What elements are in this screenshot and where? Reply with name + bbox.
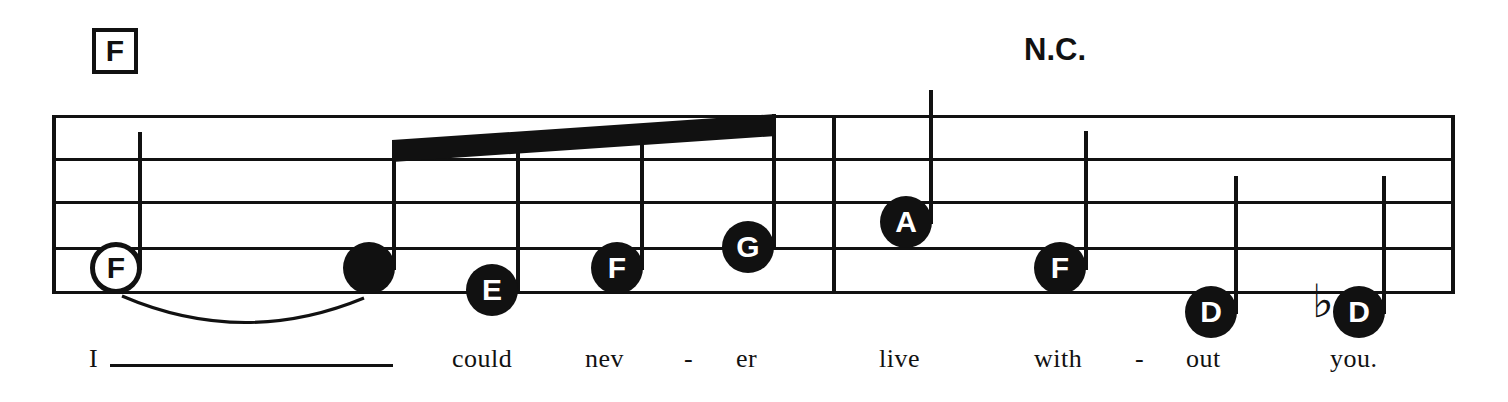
lyric-could: could [452, 346, 512, 372]
lyric-nev: nev [585, 346, 624, 372]
note-stem [392, 140, 396, 270]
lyric-i: I [89, 346, 98, 372]
notehead-d[interactable]: D [1185, 286, 1237, 338]
notehead-f[interactable]: F [90, 242, 142, 294]
notehead-f[interactable]: F [1034, 242, 1086, 294]
sheet-music-canvas: FN.C. FEFGAFD♭D Icouldnev-erlivewith-out… [0, 0, 1508, 402]
notehead-g[interactable]: G [722, 221, 774, 273]
lyric-with: with [1034, 346, 1082, 372]
barline-middle [832, 115, 836, 294]
note-stem [1084, 131, 1088, 270]
chord-symbol-boxed[interactable]: F [92, 28, 138, 74]
beam [392, 114, 776, 162]
note-stem [1382, 176, 1386, 314]
staff-line-3 [52, 201, 1455, 204]
chord-symbol[interactable]: N.C. [1024, 34, 1086, 65]
note-stem [516, 148, 520, 292]
notehead-e[interactable]: E [466, 264, 518, 316]
note-stem [772, 114, 776, 249]
notehead-a[interactable]: A [880, 196, 932, 248]
lyric-live: live [879, 346, 920, 372]
lyric-out: out [1186, 346, 1221, 372]
accidental-flat-icon: ♭ [1312, 278, 1334, 324]
barline-end [1451, 115, 1455, 294]
lyric-hyph1: - [684, 346, 693, 372]
tie-curve [118, 292, 368, 332]
lyric-hyph2: - [1135, 346, 1144, 372]
note-stem [929, 90, 933, 224]
lyric-extender-line [110, 364, 393, 367]
note-stem [1234, 176, 1238, 314]
lyric-you: you. [1330, 346, 1378, 372]
note-stem [138, 132, 142, 270]
barline-start [52, 115, 56, 294]
notehead-d[interactable]: D [1333, 286, 1385, 338]
lyric-er: er [736, 346, 757, 372]
notehead-f[interactable]: F [591, 242, 643, 294]
notehead-plain[interactable] [343, 242, 395, 294]
note-stem [640, 131, 644, 270]
